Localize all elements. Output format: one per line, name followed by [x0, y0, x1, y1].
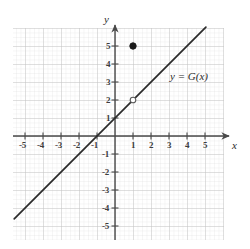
curve-equation-label: y = G(x): [170, 71, 208, 82]
ytick-pos-3: 3: [106, 78, 110, 87]
ytick-neg-2: -2: [102, 168, 109, 177]
ytick-neg-4: -4: [102, 204, 109, 213]
ytick-neg-5: -5: [102, 222, 109, 231]
xtick-pos-1: 1: [131, 141, 135, 150]
ytick-pos-1: 1: [106, 114, 110, 123]
x-axis-label: x: [232, 140, 237, 151]
ytick-neg-3: -3: [102, 186, 109, 195]
xtick-neg-4: -4: [37, 141, 44, 150]
y-axis-label: y: [104, 14, 109, 25]
xtick-pos-2: 2: [149, 141, 153, 150]
ytick-neg-1: -1: [102, 150, 109, 159]
open-point-1-2: [130, 97, 136, 103]
ytick-pos-4: 4: [106, 60, 110, 69]
xtick-neg-5: -5: [19, 141, 26, 150]
xtick-neg-3: -3: [55, 141, 62, 150]
ytick-pos-2: 2: [106, 96, 110, 105]
coordinate-plane: [0, 0, 250, 249]
xtick-pos-5: 5: [203, 141, 207, 150]
xtick-pos-3: 3: [167, 141, 171, 150]
xtick-neg-2: -2: [73, 141, 80, 150]
ytick-pos-5: 5: [106, 42, 110, 51]
xtick-pos-4: 4: [185, 141, 189, 150]
filled-point-1-5: [130, 43, 136, 49]
graph-figure: y x y = G(x) -5 -4 -3 -2 -1 1 2 3 4 5 5 …: [0, 0, 250, 249]
xtick-neg-1: -1: [91, 141, 98, 150]
